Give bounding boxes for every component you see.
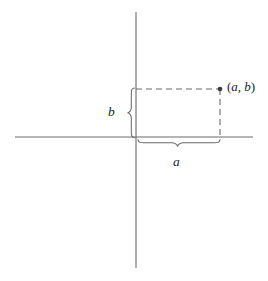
vertical-distance-label-b: b [108, 105, 115, 119]
point-coordinate-label: (a, b) [227, 80, 255, 93]
brace-vertical-b [128, 88, 135, 138]
paren-close: ) [251, 79, 255, 94]
horizontal-distance-label-a: a [173, 155, 180, 169]
coordinate-plane-svg [0, 0, 268, 281]
coordinate-plane-figure: (a, b) b a [0, 0, 268, 281]
brace-horizontal-a [138, 140, 220, 147]
point-marker-ab [218, 87, 223, 92]
